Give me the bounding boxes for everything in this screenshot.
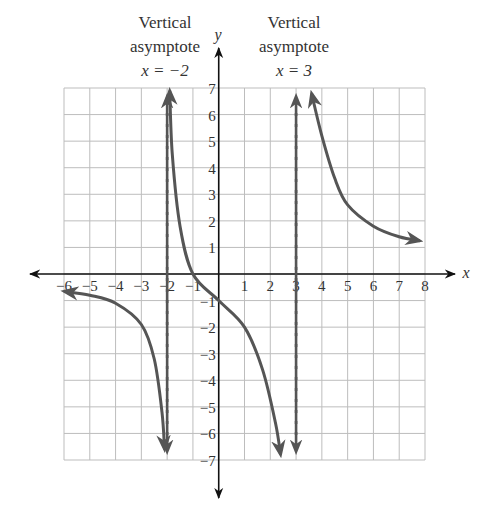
y-tick-label: −5 [200, 400, 216, 416]
y-axis-label: y [212, 26, 222, 44]
asymptote-left-label-line2: asymptote [130, 37, 200, 56]
y-tick-label: −7 [200, 453, 216, 469]
y-tick-label: −3 [200, 347, 216, 363]
x-tick-label: 2 [267, 278, 275, 294]
x-tick-label: −4 [108, 278, 124, 294]
y-tick-label: 7 [208, 81, 216, 97]
y-tick-label: 3 [208, 187, 216, 203]
x-tick-label: 7 [395, 278, 403, 294]
asymptote-right-label-line2: asymptote [259, 37, 329, 56]
curve-left-branch [64, 291, 165, 449]
y-tick-label: −2 [200, 320, 216, 336]
x-tick-label: −3 [133, 278, 149, 294]
x-tick-label: −5 [82, 278, 98, 294]
curve-right-branch [312, 93, 420, 240]
y-tick-label: 2 [208, 214, 216, 230]
asymptote-right-label-line1: Vertical [268, 13, 321, 32]
tick-labels: −6−5−4−3−2−1123456787654321−1−2−3−4−5−6−… [56, 81, 429, 469]
x-axis-label: x [461, 264, 469, 281]
asymptote-left-equation: x = −2 [140, 61, 189, 80]
x-tick-label: 5 [344, 278, 352, 294]
x-tick-label: 1 [241, 278, 249, 294]
y-tick-label: −4 [200, 373, 216, 389]
x-tick-label: 4 [318, 278, 326, 294]
y-tick-label: −6 [200, 426, 216, 442]
y-tick-label: 6 [208, 108, 216, 124]
axes [30, 48, 455, 498]
curve-middle-branch [170, 91, 281, 455]
asymptote-left-label-line1: Vertical [139, 13, 192, 32]
x-tick-label: 6 [370, 278, 378, 294]
y-tick-label: 5 [208, 134, 216, 150]
asymptote-right-equation: x = 3 [275, 61, 312, 80]
function-curves [64, 91, 420, 455]
x-tick-label: 8 [421, 278, 429, 294]
y-tick-label: 4 [208, 161, 216, 177]
y-tick-label: 1 [208, 240, 216, 256]
rational-function-graph: −6−5−4−3−2−1123456787654321−1−2−3−4−5−6−… [0, 0, 481, 513]
